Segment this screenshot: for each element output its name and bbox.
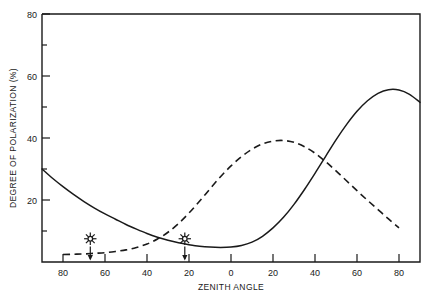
- x-tick-label: 20: [184, 268, 194, 278]
- x-tick-label: 20: [268, 268, 278, 278]
- sun-ray: [92, 241, 95, 244]
- y-axis-title: DEGREE OF POLARIZATION (%): [8, 68, 18, 208]
- x-tick-label: 60: [352, 268, 362, 278]
- sun-marker-left: [84, 233, 96, 261]
- polarization-zenith-angle-chart: 20406080 80604020020406080 ZENITH ANGLE …: [0, 0, 432, 302]
- y-tick-label: 40: [27, 134, 37, 144]
- sun-ray: [187, 241, 190, 244]
- series-line-dashed: [63, 140, 399, 254]
- x-tick-label: 60: [100, 268, 110, 278]
- x-tick-label: 80: [58, 268, 68, 278]
- sun-ray: [187, 234, 190, 237]
- arrow-head: [182, 255, 187, 261]
- x-tick-label: 80: [394, 268, 404, 278]
- y-tick-label: 60: [27, 72, 37, 82]
- x-tick-label: 40: [310, 268, 320, 278]
- sun-ray: [86, 241, 89, 244]
- sun-icon: [179, 233, 191, 245]
- sun-ray: [180, 234, 183, 237]
- y-tick-label: 80: [27, 10, 37, 20]
- plot-frame: [42, 14, 420, 262]
- sun-core: [183, 236, 188, 241]
- x-axis-ticks: [63, 254, 399, 262]
- x-tick-label: 0: [228, 268, 233, 278]
- y-tick-label: 20: [27, 196, 37, 206]
- chart-figure: 20406080 80604020020406080 ZENITH ANGLE …: [0, 0, 432, 302]
- series-line-solid: [42, 89, 420, 247]
- sun-core: [88, 236, 93, 241]
- x-tick-label: 40: [142, 268, 152, 278]
- sun-ray: [86, 234, 89, 237]
- y-axis-tick-labels: 20406080: [27, 10, 37, 206]
- sun-icon: [84, 233, 96, 245]
- x-axis-title: ZENITH ANGLE: [198, 282, 264, 292]
- arrow-head: [88, 255, 93, 261]
- x-axis-tick-labels: 80604020020406080: [58, 268, 404, 278]
- y-axis-ticks: [42, 14, 50, 231]
- down-arrow-icon: [182, 246, 187, 260]
- sun-ray: [92, 234, 95, 237]
